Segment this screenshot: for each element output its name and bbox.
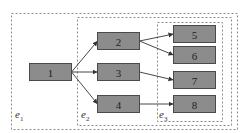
node-3: 3	[98, 64, 140, 81]
node-7: 7	[174, 72, 216, 89]
node-label: 6	[192, 50, 198, 62]
node-6: 6	[174, 47, 216, 64]
node-label: 2	[116, 36, 122, 48]
node-5: 5	[174, 26, 216, 43]
node-8: 8	[174, 96, 216, 113]
edge-n2-n5	[140, 34, 174, 41]
node-label: 7	[192, 75, 198, 87]
region-label-e2: e2	[81, 108, 90, 123]
edge-n2-n6	[140, 41, 174, 55]
node-1: 1	[30, 64, 72, 81]
node-label: 8	[192, 99, 198, 111]
node-label: 1	[48, 67, 54, 79]
node-label: 4	[116, 99, 122, 111]
edge-n1-n2	[72, 41, 98, 72]
edge-n3-n7	[140, 72, 174, 80]
node-4: 4	[98, 96, 140, 113]
region-label-e3: e3	[159, 108, 168, 123]
node-label: 3	[116, 67, 122, 79]
node-label: 5	[192, 29, 198, 41]
edge-n1-n4	[72, 72, 98, 104]
diagram-canvas: e1 e2 e3 12345678	[0, 0, 249, 133]
region-label-e1: e1	[15, 108, 24, 123]
node-2: 2	[98, 33, 140, 50]
